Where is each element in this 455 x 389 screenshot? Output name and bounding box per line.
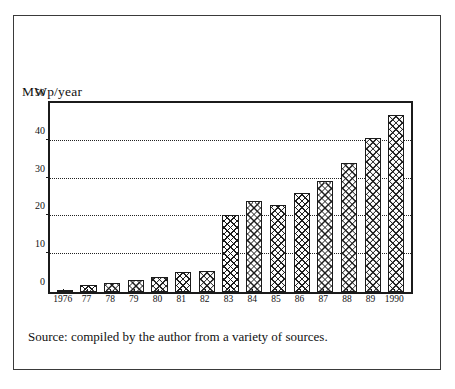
x-tick-mark-80 — [158, 289, 159, 293]
x-tick-mark-87 — [323, 289, 324, 293]
bar-slot-84 — [242, 103, 266, 292]
bar-82 — [199, 271, 215, 292]
bar-79 — [128, 280, 144, 292]
x-tick-label-1990: 1990 — [385, 294, 404, 304]
x-tick-87: 87 — [311, 294, 335, 304]
x-tick-mark-1990 — [394, 289, 395, 293]
bar-slot-77 — [77, 103, 101, 292]
x-tick-81: 81 — [169, 294, 193, 304]
x-tick-label-79: 79 — [129, 294, 139, 304]
x-tick-82: 82 — [193, 294, 217, 304]
bar-slot-89 — [361, 103, 385, 292]
x-tick-mark-85 — [276, 289, 277, 293]
y-tick-label-20: 20 — [35, 200, 45, 211]
x-tick-label-87: 87 — [318, 294, 328, 304]
x-tick-mark-88 — [347, 289, 348, 293]
x-tick-83: 83 — [217, 294, 241, 304]
x-tick-label-78: 78 — [105, 294, 115, 304]
y-tick-label-40: 40 — [35, 124, 45, 135]
bar-87 — [317, 181, 333, 293]
bar-84 — [246, 201, 262, 292]
x-tick-mark-84 — [252, 289, 253, 293]
source-note: Source: compiled by the author from a va… — [28, 329, 328, 345]
bar-88 — [341, 163, 357, 292]
bar-80 — [151, 277, 167, 292]
bar-85 — [270, 205, 286, 292]
x-tick-label-88: 88 — [342, 294, 352, 304]
x-tick-mark-82 — [205, 289, 206, 293]
bar-slot-78 — [100, 103, 124, 292]
bar-77 — [80, 285, 96, 292]
x-tick-label-81: 81 — [176, 294, 186, 304]
bar-slot-86 — [290, 103, 314, 292]
x-tick-label-82: 82 — [200, 294, 210, 304]
x-tick-label-77: 77 — [82, 294, 92, 304]
y-tick-label-50: 50 — [35, 87, 45, 98]
x-tick-mark-77 — [87, 289, 88, 293]
x-tick-mark-83 — [229, 289, 230, 293]
bar-slot-87 — [313, 103, 337, 292]
x-tick-label-85: 85 — [271, 294, 281, 304]
x-tick-77: 77 — [75, 294, 99, 304]
x-tick-label-83: 83 — [224, 294, 234, 304]
figure-panel: MWp/year 01020304050 1976777879808182838… — [13, 15, 441, 370]
x-tick-79: 79 — [122, 294, 146, 304]
x-tick-1976: 1976 — [51, 294, 75, 304]
x-tick-1990: 1990 — [382, 294, 406, 304]
bar-slot-80 — [148, 103, 172, 292]
bar-slot-82 — [195, 103, 219, 292]
bar-83 — [222, 215, 238, 292]
bar-slot-81 — [171, 103, 195, 292]
x-tick-86: 86 — [288, 294, 312, 304]
bar-slot-1976 — [53, 103, 77, 292]
bar-81 — [175, 272, 191, 292]
x-tick-mark-86 — [300, 289, 301, 293]
plot-area: 01020304050 — [50, 103, 411, 292]
x-tick-label-86: 86 — [295, 294, 305, 304]
x-tick-mark-1976 — [63, 289, 64, 293]
bar-slot-79 — [124, 103, 148, 292]
x-tick-85: 85 — [264, 294, 288, 304]
bar-78 — [104, 283, 120, 292]
x-tick-label-1976: 1976 — [53, 294, 72, 304]
x-tick-mark-78 — [110, 289, 111, 293]
y-axis-title: MWp/year — [22, 84, 82, 100]
bar-86 — [294, 193, 310, 292]
x-tick-label-89: 89 — [366, 294, 376, 304]
x-tick-mark-79 — [134, 289, 135, 293]
bar-slot-1990 — [384, 103, 408, 292]
x-tick-89: 89 — [359, 294, 383, 304]
bar-89 — [365, 138, 381, 292]
bar-series — [50, 103, 411, 292]
x-tick-mark-89 — [371, 289, 372, 293]
x-tick-label-84: 84 — [247, 294, 257, 304]
x-tick-88: 88 — [335, 294, 359, 304]
bar-slot-88 — [337, 103, 361, 292]
plot-frame: 01020304050 — [48, 101, 413, 294]
x-axis-ticks: 1976777879808182838485868788891990 — [48, 294, 409, 304]
x-tick-84: 84 — [240, 294, 264, 304]
x-tick-label-80: 80 — [153, 294, 163, 304]
y-tick-label-30: 30 — [35, 162, 45, 173]
bar-slot-85 — [266, 103, 290, 292]
y-tick-label-10: 10 — [35, 238, 45, 249]
x-tick-80: 80 — [146, 294, 170, 304]
y-tick-label-0: 0 — [40, 276, 45, 287]
x-tick-78: 78 — [98, 294, 122, 304]
bar-1976 — [57, 290, 73, 292]
x-tick-mark-81 — [181, 289, 182, 293]
bar-1990 — [388, 115, 404, 292]
bar-slot-83 — [219, 103, 243, 292]
